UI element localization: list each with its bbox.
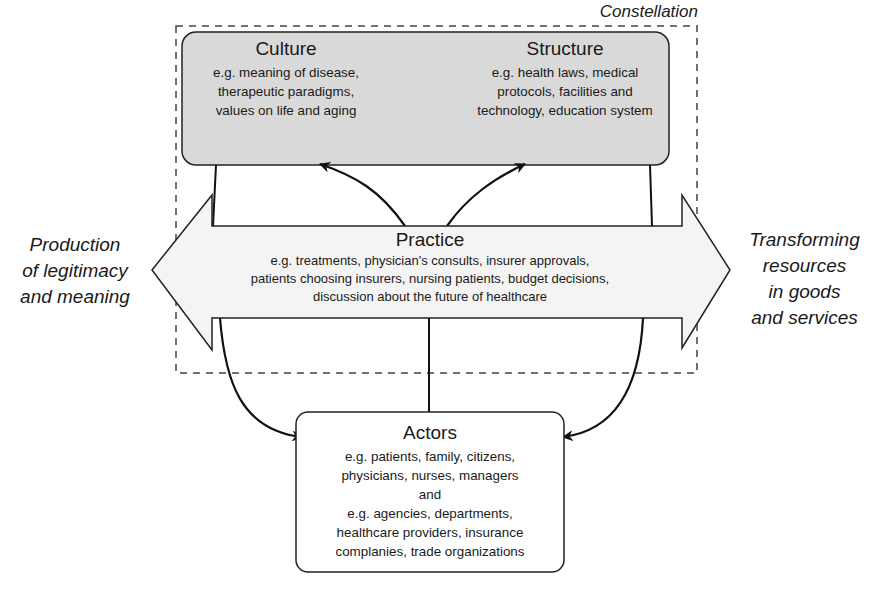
left-outcome-line: and meaning bbox=[0, 284, 150, 310]
actors-line: and bbox=[298, 485, 562, 504]
structure-connector-line bbox=[650, 165, 652, 226]
structure-to-actors-arrow bbox=[563, 318, 643, 437]
practice-title: Practice bbox=[230, 229, 630, 252]
practice-line: discussion about the future of healthcar… bbox=[230, 288, 630, 306]
actors-line: complanies, trade organizations bbox=[298, 542, 562, 561]
actors-description: e.g. patients, family, citizens, physici… bbox=[298, 447, 562, 561]
right-outcome-line: Transforming bbox=[727, 227, 882, 253]
actors-title: Actors bbox=[298, 422, 562, 445]
practice-to-culture-arrow bbox=[320, 164, 405, 226]
practice-line: patients choosing insurers, nursing pati… bbox=[230, 270, 630, 288]
left-outcome-line: of legitimacy bbox=[0, 258, 150, 284]
right-outcome-line: resources bbox=[727, 253, 882, 279]
culture-connector-line bbox=[213, 165, 216, 226]
practice-to-structure-arrow bbox=[447, 164, 525, 226]
practice-line: e.g. treatments, physician's consults, i… bbox=[230, 252, 630, 270]
left-outcome-label: Production of legitimacy and meaning bbox=[0, 232, 150, 310]
structure-description: e.g. health laws, medical protocols, fac… bbox=[460, 63, 670, 120]
culture-to-actors-arrow bbox=[220, 318, 302, 437]
structure-block: Structure e.g. health laws, medical prot… bbox=[460, 38, 670, 120]
right-outcome-line: and services bbox=[727, 305, 882, 331]
actors-line: e.g. agencies, departments, bbox=[298, 504, 562, 523]
culture-line: values on life and aging bbox=[186, 101, 386, 120]
culture-title: Culture bbox=[186, 38, 386, 61]
actors-line: healthcare providers, insurance bbox=[298, 523, 562, 542]
right-outcome-line: in goods bbox=[727, 279, 882, 305]
structure-line: e.g. health laws, medical bbox=[460, 63, 670, 82]
culture-line: e.g. meaning of disease, bbox=[186, 63, 386, 82]
actors-line: physicians, nurses, managers bbox=[298, 466, 562, 485]
actors-line: e.g. patients, family, citizens, bbox=[298, 447, 562, 466]
left-outcome-line: Production bbox=[0, 232, 150, 258]
right-outcome-label: Transforming resources in goods and serv… bbox=[727, 227, 882, 331]
structure-title: Structure bbox=[460, 38, 670, 61]
culture-line: therapeutic paradigms, bbox=[186, 82, 386, 101]
structure-line: technology, education system bbox=[460, 101, 670, 120]
actors-block: Actors e.g. patients, family, citizens, … bbox=[298, 422, 562, 561]
culture-block: Culture e.g. meaning of disease, therape… bbox=[186, 38, 386, 120]
structure-line: protocols, facilities and bbox=[460, 82, 670, 101]
practice-block: Practice e.g. treatments, physician's co… bbox=[230, 229, 630, 306]
practice-description: e.g. treatments, physician's consults, i… bbox=[230, 252, 630, 306]
constellation-label: Constellation bbox=[560, 2, 698, 22]
culture-description: e.g. meaning of disease, therapeutic par… bbox=[186, 63, 386, 120]
